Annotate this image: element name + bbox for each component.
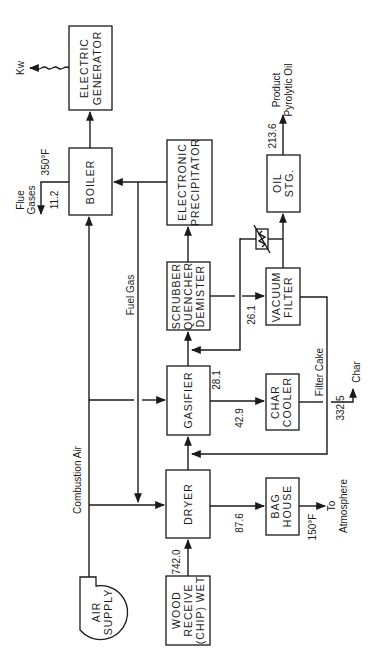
electric-generator-box: ELECTRIC GENERATOR bbox=[69, 26, 112, 110]
char-label: Char bbox=[351, 360, 362, 382]
vacuum-filter-label-2: FILTER bbox=[282, 276, 294, 317]
gasifier-label: GASIFIER bbox=[182, 371, 194, 428]
gasifier-box: GASIFIER bbox=[167, 366, 210, 435]
product-label-2: Pyrolytic Oil bbox=[283, 64, 294, 117]
atmosphere-label-1: To bbox=[326, 500, 337, 511]
electronic-precipitator-box: ELECTRONIC PRECIPITATOR bbox=[167, 138, 212, 226]
flue-temp: 350°F bbox=[40, 149, 51, 176]
electric-generator-label-2: GENERATOR bbox=[91, 31, 103, 106]
combustion-air-label: Combustion Air bbox=[72, 445, 83, 513]
heat-exchanger-icon bbox=[254, 225, 270, 253]
kw-output-wave bbox=[30, 67, 69, 69]
gasifier-scrubber-value: 28.1 bbox=[211, 370, 222, 390]
flue-label-2: Gases bbox=[26, 186, 37, 215]
vacuum-in-value: 26.1 bbox=[246, 305, 257, 325]
fuel-gas-label: Fuel Gas bbox=[125, 275, 136, 316]
scrubber-label-2: QUENCHER bbox=[182, 262, 194, 330]
air-supply-label-1: AIR bbox=[90, 602, 102, 623]
air-supply-blower: AIR SUPPLY bbox=[80, 577, 128, 640]
wood-feed-value: 742.0 bbox=[171, 549, 182, 574]
bag-house-label-1: BAG bbox=[269, 493, 281, 518]
vacuum-filter-label-1: VACUUM bbox=[270, 272, 282, 323]
char-value: 332.5 bbox=[335, 395, 346, 420]
kw-label: Kw bbox=[15, 60, 26, 75]
wood-receive-label-1: WOOD bbox=[170, 591, 182, 629]
bag-temp: 150°F bbox=[307, 514, 318, 541]
scrubber-label-3: DEMISTER bbox=[194, 265, 206, 327]
boiler-box: BOILER bbox=[69, 148, 112, 215]
dryer-label: DRYER bbox=[182, 483, 194, 525]
wood-receive-label-3: (CHIP) WET bbox=[194, 576, 206, 644]
char-cooler-box: CHAR COOLER bbox=[266, 374, 299, 430]
oil-storage-label-2: STG. bbox=[283, 169, 295, 198]
precipitator-label-2: PRECIPITATOR bbox=[189, 138, 201, 226]
air-supply-label-2: SUPPLY bbox=[102, 589, 114, 636]
gasifier-cooler-value: 42.9 bbox=[234, 408, 245, 428]
char-cooler-label-1: CHAR bbox=[269, 385, 281, 419]
atmosphere-label-2: Atmosphere bbox=[338, 479, 349, 533]
oil-storage-label-1: OIL bbox=[271, 173, 283, 193]
wood-receive-label-2: RECEIVE bbox=[182, 583, 194, 636]
dryer-box: DRYER bbox=[166, 470, 210, 538]
product-label-1: Product bbox=[271, 73, 282, 108]
scrubber-quencher-demister-box: SCRUBBER QUENCHER DEMISTER bbox=[167, 262, 210, 330]
filter-cake-label: Filter Cake bbox=[314, 347, 325, 396]
electric-generator-label-1: ELECTRIC bbox=[78, 38, 90, 98]
bag-house-label-2: HOUSE bbox=[281, 485, 293, 527]
wood-receive-box: WOOD RECEIVE (CHIP) WET bbox=[166, 576, 210, 645]
scrubber-label-1: SCRUBBER bbox=[170, 263, 182, 329]
boiler-label: BOILER bbox=[84, 160, 96, 205]
flue-value: 11.2 bbox=[49, 190, 60, 209]
precipitator-label-1: ELECTRONIC bbox=[176, 143, 188, 221]
char-cooler-label-2: COOLER bbox=[281, 377, 293, 427]
process-flow-diagram: ELECTRIC GENERATOR BOILER ELECTRONIC PRE… bbox=[0, 0, 368, 648]
flue-label-1: Flue bbox=[15, 190, 26, 210]
bag-house-box: BAG HOUSE bbox=[266, 478, 299, 535]
oil-value: 213.6 bbox=[267, 123, 278, 148]
dryer-baghouse-value: 87.6 bbox=[234, 513, 245, 533]
oil-storage-box: OIL STG. bbox=[267, 155, 300, 212]
vacuum-filter-box: VACUUM FILTER bbox=[266, 268, 300, 325]
